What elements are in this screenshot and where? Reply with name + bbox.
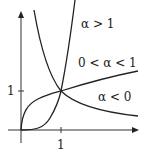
y-tick-label: 1 (7, 85, 15, 97)
y-axis-arrow-icon (18, 11, 24, 18)
label-alpha-between-0-and-1: 0 < α < 1 (78, 57, 137, 69)
label-alpha-less-than-0: α < 0 (98, 91, 131, 103)
power-function-plot (0, 0, 148, 157)
x-axis-arrow-icon (132, 127, 139, 133)
label-alpha-greater-than-1: α > 1 (81, 18, 114, 30)
x-tick-label: 1 (57, 139, 65, 151)
